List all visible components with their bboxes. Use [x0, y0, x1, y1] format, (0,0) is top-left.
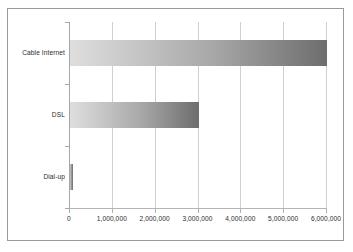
x-axis-label-6000000: 6,000,000: [311, 215, 341, 222]
x-axis-label-0: 0: [67, 215, 71, 222]
x-axis-label-2000000: 2,000,000: [140, 215, 170, 222]
bar-dsl: [70, 102, 199, 128]
bar-dial-up: [70, 164, 73, 190]
x-axis-tick: [155, 209, 156, 213]
x-axis-tick: [198, 209, 199, 213]
x-axis-tick: [240, 209, 241, 213]
plot-area: [69, 22, 326, 208]
x-axis-label-3000000: 3,000,000: [182, 215, 212, 222]
bar-cable-internet: [70, 40, 327, 66]
x-axis-tick: [69, 209, 70, 213]
x-axis-tick: [112, 209, 113, 213]
category-label-dsl: DSL: [52, 110, 65, 119]
x-axis-label-5000000: 5,000,000: [268, 215, 298, 222]
x-axis-tick: [326, 209, 327, 213]
category-axis-labels: Cable Internet DSL Dial-up: [0, 22, 65, 208]
category-label-cable-internet: Cable Internet: [22, 48, 65, 57]
x-axis-label-4000000: 4,000,000: [225, 215, 255, 222]
x-axis-label-1000000: 1,000,000: [97, 215, 127, 222]
x-axis-tick: [283, 209, 284, 213]
category-label-dial-up: Dial-up: [43, 172, 65, 181]
